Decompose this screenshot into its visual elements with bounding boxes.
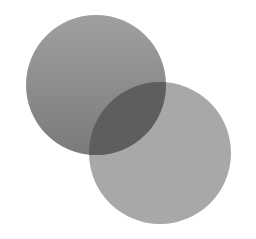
venn-diagram-svg	[0, 0, 256, 239]
venn-diagram	[0, 0, 256, 239]
